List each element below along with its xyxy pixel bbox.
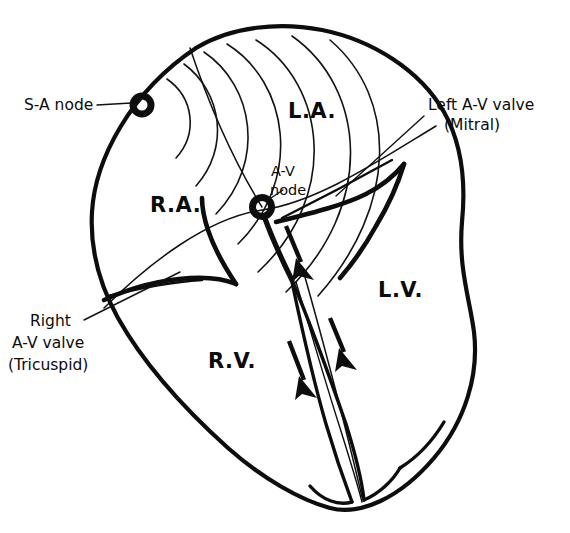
mitral-valve-group	[276, 160, 404, 278]
wavefront-arc-5	[256, 40, 314, 272]
lv-endocardial-fibers	[400, 422, 444, 468]
tricuspid-leader-line	[84, 272, 180, 320]
label-mitral-valve-line1: Left A-V valve	[428, 96, 534, 114]
arrow-right-branch-shaft	[289, 341, 304, 380]
impulse-arrow-2-group	[330, 318, 357, 372]
sa-node-leader-line	[97, 103, 131, 105]
label-right-ventricle: R.V.	[208, 349, 256, 373]
label-left-ventricle: L.V.	[378, 278, 423, 302]
sa-node-marker-group[interactable]	[133, 96, 151, 114]
wavefront-arc-3	[204, 52, 248, 214]
label-tricuspid-valve-line1: Right	[30, 312, 71, 330]
label-sa-node: S-A node	[24, 96, 93, 114]
heart-conduction-diagram: R.A. L.A. R.V. L.V. S-A node A-V node Le…	[0, 0, 570, 533]
heart-diagram-canvas: R.A. L.A. R.V. L.V. S-A node A-V node Le…	[0, 0, 570, 533]
sa-node-icon[interactable]	[133, 96, 151, 114]
arrow-left-branch-head	[335, 348, 357, 372]
label-tricuspid-valve-line2: A-V valve	[12, 334, 84, 352]
arrow-his-bundle-head	[292, 258, 314, 282]
label-right-atrium: R.A.	[150, 193, 201, 217]
wavefront-arc-7	[318, 40, 380, 296]
label-av-node-line1: A-V	[271, 163, 295, 179]
label-tricuspid-valve-line3: (Tricuspid)	[8, 356, 88, 374]
mitral-leaflet-posterior	[340, 164, 404, 278]
label-mitral-valve-line2: (Mitral)	[444, 116, 500, 134]
wavefront-arc-2	[184, 64, 218, 186]
label-left-atrium: L.A.	[288, 99, 336, 123]
arrow-his-bundle-shaft	[286, 226, 301, 262]
label-av-node-line2: node	[270, 182, 306, 198]
septum-lines-group	[104, 48, 436, 497]
arrow-left-branch-shaft	[330, 318, 344, 352]
wavefront-arc-1	[167, 79, 190, 158]
